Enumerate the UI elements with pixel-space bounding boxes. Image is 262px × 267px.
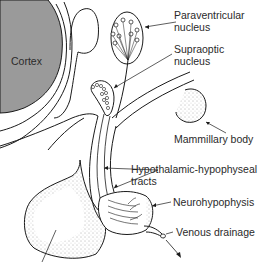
leader-venous — [166, 232, 173, 234]
supraoptic-nucleus — [91, 81, 114, 116]
neurohypophysis-label: Neurohypophysis — [173, 196, 254, 208]
leader-paraventricular — [145, 22, 176, 27]
neurohypophysis — [98, 192, 152, 235]
leader-supraoptic — [114, 54, 172, 88]
pituitary-stalk-tract-1 — [97, 114, 104, 198]
mammillary-body-label: Mammillary body — [174, 133, 253, 145]
paraventricular-nucleus — [111, 12, 143, 118]
leader-mammillary — [206, 122, 226, 133]
venous-drainage-label: Venous drainage — [176, 226, 255, 238]
hypothalamic-hypophyseal-tracts-label: Hypothalamic-hypophyseal tracts — [131, 163, 257, 187]
venous-drainage-arrowhead — [176, 252, 181, 258]
mammillary-body — [176, 89, 206, 122]
cortex-label: Cortex — [11, 55, 42, 67]
pituitary-stalk-tract-2 — [104, 116, 110, 198]
venous-vessel-opening — [161, 234, 166, 238]
pituitary-stalk-right — [110, 126, 130, 198]
optic-contour — [48, 118, 84, 150]
paraventricular-nucleus-label: Paraventricular nucleus — [174, 9, 245, 33]
supraoptic-nucleus-label: Supraoptic nucleus — [174, 43, 224, 67]
